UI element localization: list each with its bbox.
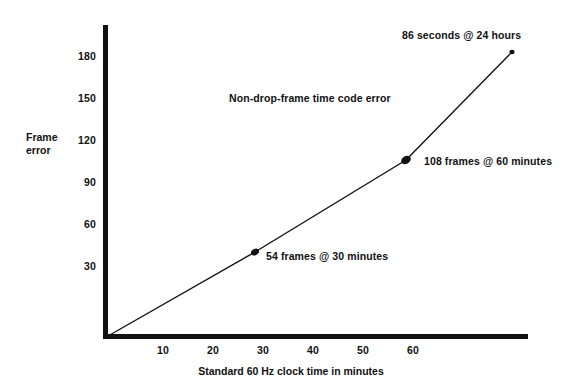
x-tick-label-50: 50 xyxy=(343,344,383,356)
chart-figure: 180 150 120 90 60 30 10 20 30 40 50 60 F… xyxy=(0,0,582,387)
y-tick-label-180: 180 xyxy=(48,50,96,62)
x-tick-label-10: 10 xyxy=(143,344,183,356)
y-axis-title-line-2: error xyxy=(26,144,58,157)
annotation-point-24-hours: 86 seconds @ 24 hours xyxy=(402,29,521,41)
y-axis-title: Frame error xyxy=(26,131,58,157)
x-axis-title: Standard 60 Hz clock time in minutes xyxy=(0,365,582,377)
y-tick-label-90: 90 xyxy=(48,176,96,188)
y-tick-label-60: 60 xyxy=(48,218,96,230)
y-tick-label-150: 150 xyxy=(48,92,96,104)
x-tick-label-60: 60 xyxy=(393,344,433,356)
y-tick-label-30: 30 xyxy=(48,260,96,272)
data-point-24-hours xyxy=(509,50,514,54)
y-axis-line xyxy=(103,25,108,339)
x-tick-label-40: 40 xyxy=(293,344,333,356)
x-tick-label-20: 20 xyxy=(193,344,233,356)
data-point-30-minutes xyxy=(250,247,260,257)
annotation-point-60-minutes: 108 frames @ 60 minutes xyxy=(424,155,552,167)
chart-title-annotation: Non-drop-frame time code error xyxy=(229,92,391,104)
annotation-point-30-minutes: 54 frames @ 30 minutes xyxy=(266,250,388,262)
x-tick-label-30: 30 xyxy=(243,344,283,356)
x-axis-line xyxy=(103,334,528,339)
y-axis-title-line-1: Frame xyxy=(26,131,58,144)
